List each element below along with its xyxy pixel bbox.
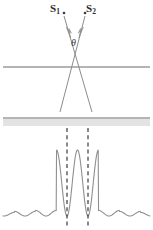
source1-subscript: 1 xyxy=(56,7,60,16)
source2-label: S2 xyxy=(86,3,96,14)
source2-subscript: 2 xyxy=(92,7,96,16)
intensity-curve xyxy=(3,150,150,216)
beam2-arrowhead xyxy=(78,27,83,38)
source1-point xyxy=(63,12,66,15)
screen-band xyxy=(3,119,150,126)
figure-canvas xyxy=(0,0,153,230)
source1-label: S1 xyxy=(50,3,60,14)
angle-theta-label: θ xyxy=(71,38,76,48)
interference-figure: S1 S2 θ xyxy=(0,0,153,230)
